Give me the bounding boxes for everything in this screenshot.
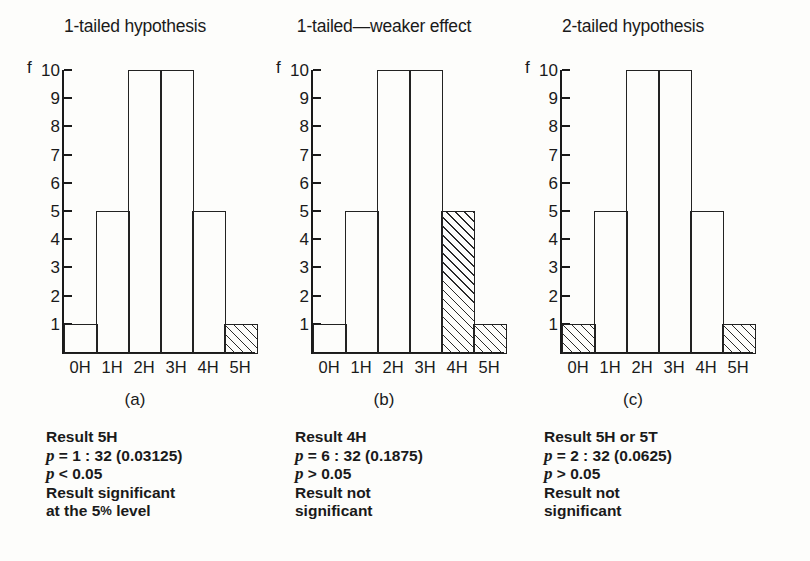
panel-b-caption-conclusion-2: significant [295, 502, 525, 521]
panel-a-bars [64, 62, 256, 354]
x-tick-label: 3H [658, 358, 690, 377]
y-tick-label: 9 [18, 90, 60, 107]
panel-a-caption-result: Result 5H [46, 428, 276, 447]
x-tick-label: 0H [64, 358, 96, 377]
y-tick-label: 2 [267, 288, 309, 305]
panel-b-bars [313, 62, 505, 354]
histogram-bar [345, 211, 379, 354]
y-tick-label: 8 [516, 118, 558, 135]
panel-c-letter: (c) [498, 390, 768, 410]
histogram-bar [594, 211, 628, 354]
y-tick-label: 8 [267, 118, 309, 135]
panel-c-caption-p-value: p = 2 : 32 (0.0625) [544, 447, 774, 466]
x-tick-label: 1H [594, 358, 626, 377]
y-tick-label: 9 [267, 90, 309, 107]
x-tick-label: 3H [160, 358, 192, 377]
panel-c-p-compare-text: > 0.05 [553, 465, 601, 482]
histogram-bar [377, 70, 411, 354]
panel-b-caption-conclusion-1: Result not [295, 484, 525, 503]
y-tick-label: 5 [516, 203, 558, 220]
panel-c-x-labels: 0H1H2H3H4H5H [560, 358, 752, 377]
y-tick-label: 1 [18, 316, 60, 333]
panel-b-caption-result: Result 4H [295, 428, 525, 447]
panel-c-caption-conclusion-1: Result not [544, 484, 774, 503]
x-tick-label: 1H [345, 358, 377, 377]
panel-a-p-symbol: p [46, 446, 55, 465]
panel-c-p-symbol-2: p [544, 464, 553, 483]
histogram-bar [96, 211, 130, 354]
x-tick-label: 2H [377, 358, 409, 377]
panel-a-caption: Result 5H p = 1 : 32 (0.03125) p < 0.05 … [46, 428, 276, 521]
y-tick-label: 5 [18, 203, 60, 220]
x-tick-label: 0H [313, 358, 345, 377]
y-tick-label: 4 [18, 231, 60, 248]
panel-b-p-compare-text: > 0.05 [304, 465, 352, 482]
panel-b-p-symbol-2: p [295, 464, 304, 483]
histogram-bar [160, 70, 194, 354]
panel-c-title: 2-tailed hypothesis [498, 16, 768, 37]
x-tick-label: 0H [562, 358, 594, 377]
y-tick-label: 1 [267, 316, 309, 333]
histogram-bar [64, 324, 98, 354]
panel-a-caption-p-value: p = 1 : 32 (0.03125) [46, 447, 276, 466]
y-tick-label: 5 [267, 203, 309, 220]
histogram-bar [409, 70, 443, 354]
y-tick-label: 3 [18, 259, 60, 276]
panel-a: 1-tailed hypothesis f 10987654321 0H1H2H… [0, 0, 270, 561]
y-tick-label: 3 [267, 259, 309, 276]
y-tick-label: 10 [18, 62, 60, 79]
panel-a-level-pre: at the 5 [46, 502, 100, 519]
panel-c: 2-tailed hypothesis f 10987654321 0H1H2H… [498, 0, 768, 561]
panel-a-x-labels: 0H1H2H3H4H5H [62, 358, 258, 377]
y-tick-label: 8 [18, 118, 60, 135]
panel-b-plot: f 10987654321 0H1H2H3H4H5H [289, 62, 509, 362]
x-tick-label: 4H [690, 358, 722, 377]
histogram-bar [562, 324, 596, 354]
panel-b: 1-tailed—weaker effect f 10987654321 0H1… [249, 0, 519, 561]
x-tick-label: 5H [722, 358, 752, 377]
panel-b-caption: Result 4H p = 6 : 32 (0.1875) p > 0.05 R… [295, 428, 525, 521]
panel-a-plot: f 10987654321 0H1H2H3H4H5H [40, 62, 260, 362]
figure-hypothesis-testing-histograms: 1-tailed hypothesis f 10987654321 0H1H2H… [0, 0, 810, 561]
histogram-bar [192, 211, 226, 354]
y-tick-label: 6 [516, 175, 558, 192]
x-tick-label: 4H [441, 358, 473, 377]
panel-b-caption-p-compare: p > 0.05 [295, 465, 525, 484]
panel-c-p-value-text: = 2 : 32 (0.0625) [553, 447, 672, 464]
y-tick-label: 1 [516, 316, 558, 333]
histogram-bar [658, 70, 692, 354]
x-tick-label: 1H [96, 358, 128, 377]
panel-b-caption-p-value: p = 6 : 32 (0.1875) [295, 447, 525, 466]
panel-b-p-value-text: = 6 : 32 (0.1875) [304, 447, 423, 464]
y-tick-label: 6 [18, 175, 60, 192]
panel-a-caption-conclusion-2: at the 5% level [46, 502, 276, 521]
panel-b-x-labels: 0H1H2H3H4H5H [311, 358, 507, 377]
histogram-bar [441, 211, 475, 354]
y-tick-label: 2 [516, 288, 558, 305]
histogram-bar [128, 70, 162, 354]
y-tick-label: 7 [516, 147, 558, 164]
panel-c-caption-p-compare: p > 0.05 [544, 465, 774, 484]
panel-a-letter: (a) [0, 390, 270, 410]
panel-c-p-symbol: p [544, 446, 553, 465]
histogram-bar [313, 324, 347, 354]
y-tick-label: 9 [516, 90, 558, 107]
panel-c-bars [562, 62, 754, 354]
percent-sign-icon: % [100, 503, 112, 518]
panel-c-caption: Result 5H or 5T p = 2 : 32 (0.0625) p > … [544, 428, 774, 521]
panel-a-p-value-text: = 1 : 32 (0.03125) [55, 447, 183, 464]
panel-b-p-symbol: p [295, 446, 304, 465]
y-tick-label: 3 [516, 259, 558, 276]
histogram-bar [722, 324, 756, 354]
panel-a-p-compare-text: < 0.05 [55, 465, 103, 482]
panel-a-caption-p-compare: p < 0.05 [46, 465, 276, 484]
y-tick-label: 10 [267, 62, 309, 79]
y-tick-label: 10 [516, 62, 558, 79]
panel-c-caption-result: Result 5H or 5T [544, 428, 774, 447]
y-tick-label: 4 [267, 231, 309, 248]
panel-a-title: 1-tailed hypothesis [0, 16, 270, 37]
x-tick-label: 2H [128, 358, 160, 377]
y-tick-label: 7 [267, 147, 309, 164]
y-tick-label: 6 [267, 175, 309, 192]
panel-a-level-post: level [112, 502, 151, 519]
